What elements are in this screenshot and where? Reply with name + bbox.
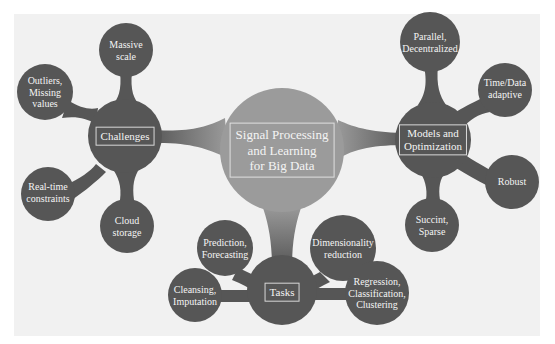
- outliers-label: Outliers, Missing values: [28, 75, 63, 110]
- robust-label: Robust: [498, 176, 526, 188]
- dimensionality-label: Dimensionality reduction: [312, 237, 374, 260]
- real-time-label: Real-time constraints: [26, 181, 69, 204]
- cleansing-label: Cleansing, Imputation: [173, 284, 217, 307]
- center-label: Signal Processing and Learning for Big D…: [230, 123, 335, 178]
- regression-label: Regression, Classification, Clustering: [348, 276, 406, 311]
- parallel-label: Parallel, Decentralized: [402, 31, 458, 54]
- succint-label: Succint, Sparse: [416, 214, 449, 237]
- cloud-storage-label: Cloud storage: [113, 215, 142, 238]
- prediction-label: Prediction, Forecasting: [202, 237, 249, 260]
- massive-scale-label: Massive scale: [109, 39, 142, 62]
- challenges-label: Challenges: [96, 127, 155, 146]
- tasks-label: Tasks: [265, 283, 300, 302]
- models-label: Models and Optimization: [399, 124, 467, 155]
- time-data-label: Time/Data adaptive: [484, 77, 526, 100]
